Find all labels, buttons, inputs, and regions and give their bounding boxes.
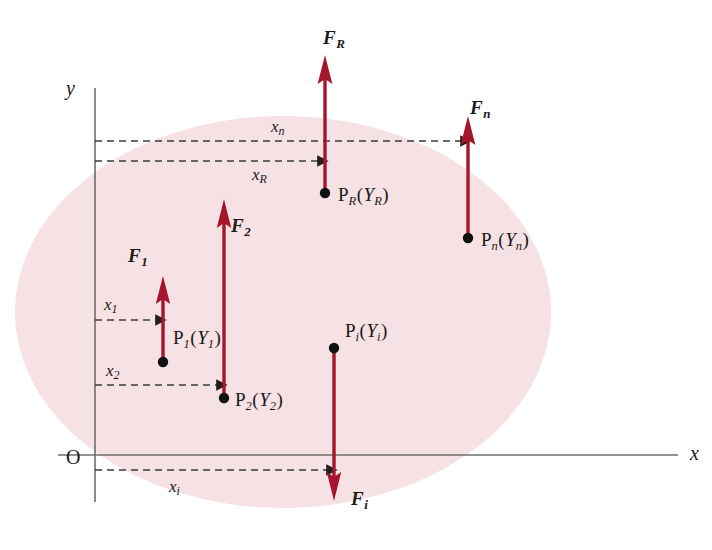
dimension-label-xi: xi [169,478,180,497]
force-diagram-figure: y x O FR Fn F1 F2 Fi PR(YR) Pn(Yn) P1(Y1… [0,0,712,550]
application-point-Pi [329,343,339,353]
application-point-P1 [158,357,168,367]
application-point-PR [320,188,330,198]
force-label-F2: F2 [231,216,251,238]
dimension-label-xn: xn [271,118,285,137]
diagram-canvas [0,0,712,550]
origin-label: O [66,447,80,467]
point-label-P2: P2(Y2) [235,390,283,412]
x-axis-label: x [690,443,699,463]
y-axis-label: y [66,78,75,98]
point-label-Pi: Pi(Yi) [345,321,388,343]
application-point-P2 [219,393,229,403]
point-label-PR: PR(YR) [338,185,389,207]
application-point-Pn [463,233,473,243]
dimension-label-xR: xR [252,166,267,185]
force-label-F1: F1 [128,246,148,268]
force-label-FR: FR [323,28,345,50]
dimension-label-x2: x2 [106,362,120,381]
force-label-Fi: Fi [351,489,368,511]
dimension-label-x1: x1 [104,296,118,315]
force-label-Fn: Fn [470,98,490,120]
point-label-P1: P1(Y1) [173,328,221,350]
point-label-Pn: Pn(Yn) [481,230,529,252]
